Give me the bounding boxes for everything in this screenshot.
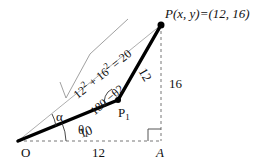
foot-label: A — [156, 146, 164, 159]
alpha-label: α — [56, 110, 63, 123]
arm-diagram — [0, 0, 257, 166]
theta1-sub: 1 — [84, 129, 89, 139]
base-length-label: 12 — [92, 146, 105, 159]
joint-label: P1 — [118, 106, 130, 122]
theta1-label: θ1 — [78, 123, 89, 139]
right-angle-marker — [148, 129, 161, 141]
theta1-arc — [62, 123, 66, 141]
joint-label-sub: 1 — [125, 112, 130, 122]
end-effector-label: P(x, y)=(12, 16) — [165, 7, 250, 20]
end-effector-point — [158, 22, 165, 29]
origin-label: O — [21, 146, 30, 159]
height-length-label: 16 — [169, 77, 182, 90]
